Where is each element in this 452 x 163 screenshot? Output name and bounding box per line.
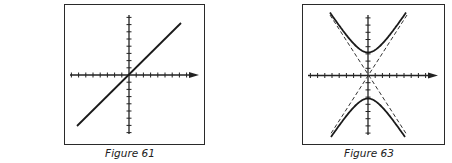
x-axis-arrow-icon — [428, 73, 438, 79]
figure-61-caption: Figure 61 — [70, 147, 190, 159]
x-axis-arrow-icon — [189, 72, 199, 78]
figure-63-caption: Figure 63 — [309, 147, 429, 159]
figure-61-plot — [70, 15, 199, 134]
figures-canvas — [0, 0, 452, 163]
figure-63-plot — [308, 13, 438, 137]
